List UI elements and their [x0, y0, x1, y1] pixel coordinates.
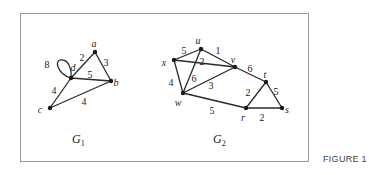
vertex-label-c: c	[38, 104, 43, 115]
edge-x-v	[174, 60, 235, 67]
graph-subscript: 2	[222, 139, 226, 148]
edge-weight-r-t: 2	[246, 87, 251, 98]
edge-weight-d-c: 4	[52, 85, 57, 96]
vertex-v	[233, 65, 237, 69]
graph-name: G	[72, 132, 81, 146]
vertex-t	[264, 80, 268, 84]
edge-weight-x-v: 2	[200, 56, 205, 67]
edge-weight-w-r: 5	[210, 105, 215, 116]
edge-weight-x-w: 4	[169, 77, 174, 88]
figure-caption: FIGURE 1	[323, 154, 367, 164]
vertex-x	[172, 58, 176, 62]
vertex-w	[181, 91, 185, 95]
vertex-label-x: x	[161, 57, 167, 68]
vertex-label-b: b	[114, 77, 119, 88]
figure-canvas: 235448abcdG151264365252uvxwtrsG2	[0, 0, 369, 175]
edge-weight-t-s: 5	[274, 86, 279, 97]
graph-label: G2	[213, 132, 226, 148]
edge-weight-a-d: 2	[80, 52, 85, 63]
edge-weight-a-b: 3	[104, 57, 109, 68]
edge-weight-r-s: 2	[260, 112, 265, 123]
vertex-label-u: u	[196, 35, 201, 46]
vertex-u	[199, 47, 203, 51]
vertex-label-d: d	[71, 62, 77, 73]
edge-weight-w-v: 3	[209, 80, 214, 91]
graph-g1: 235448abcdG1	[38, 38, 119, 148]
vertex-label-s: s	[285, 104, 289, 115]
graphs-layer: 235448abcdG151264365252uvxwtrsG2	[38, 35, 289, 148]
graph-subscript: 1	[81, 139, 85, 148]
vertex-label-r: r	[241, 112, 245, 123]
edge-weight-u-w: 6	[192, 73, 197, 84]
edge-weight-x-u: 5	[182, 45, 187, 56]
vertex-a	[93, 50, 97, 54]
vertex-label-v: v	[231, 54, 236, 65]
edge-loop-d	[57, 60, 71, 78]
edge-weight-c-b: 4	[82, 96, 87, 107]
edge-x-w	[174, 60, 183, 93]
edge-weight-d-d: 8	[45, 59, 50, 70]
edge-w-r	[183, 93, 246, 108]
graph-label: G1	[72, 132, 85, 148]
vertex-label-w: w	[175, 97, 182, 108]
graph-g2: 51264365252uvxwtrsG2	[161, 35, 289, 148]
vertex-s	[280, 106, 284, 110]
vertex-d	[69, 76, 73, 80]
vertex-c	[48, 106, 52, 110]
graph-name: G	[213, 132, 222, 146]
edge-weight-v-t: 6	[248, 63, 253, 74]
vertex-label-t: t	[264, 69, 267, 80]
vertex-label-a: a	[92, 38, 97, 49]
edge-weight-u-v: 1	[216, 45, 221, 56]
edge-weight-d-b: 5	[88, 69, 93, 80]
vertex-r	[244, 106, 248, 110]
